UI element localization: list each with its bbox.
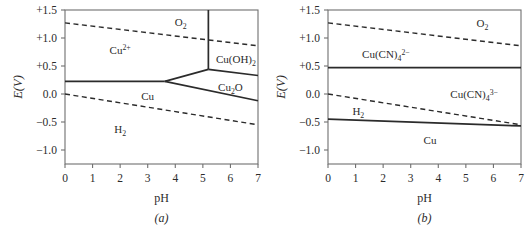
x-tick-label: 2 <box>380 172 386 184</box>
boundary-line-cu2o-cu-oh-2-boundary <box>208 69 258 75</box>
x-tick-label: 6 <box>491 172 497 184</box>
boundary-line-o2-water-stability-upper <box>328 23 521 46</box>
region-label-cu-oh-2: Cu(OH)2 <box>216 53 256 68</box>
panel-a: +1.5+1.0+0.50.0−0.5−1.001234567pHE(V)Cu2… <box>0 0 263 231</box>
y-tick-label: −1.0 <box>36 144 57 156</box>
region-label-cu-metal: Cu <box>424 134 437 146</box>
y-tick-label: +1.5 <box>36 4 57 16</box>
x-tick-label: 3 <box>408 172 414 184</box>
x-tick-label: 7 <box>518 172 524 184</box>
panel-b-plot: +1.5+1.0+0.50.0−0.5−1.001234567pHE(V)O2C… <box>263 0 526 231</box>
region-label-cu-metal: Cu <box>141 90 154 102</box>
x-axis-title: pH <box>417 191 432 205</box>
y-axis-title: E(V) <box>11 75 25 100</box>
panel-caption: (a) <box>155 211 169 225</box>
x-tick-label: 0 <box>62 172 68 184</box>
y-tick-label: +0.5 <box>299 60 320 72</box>
y-tick-label: −0.5 <box>36 116 57 128</box>
region-label-cu2plus: Cu2+ <box>110 43 132 56</box>
x-tick-label: 3 <box>145 172 151 184</box>
y-axis-title: E(V) <box>274 75 288 100</box>
x-tick-label: 5 <box>200 172 206 184</box>
panel-b: +1.5+1.0+0.50.0−0.5−1.001234567pHE(V)O2C… <box>263 0 526 231</box>
y-tick-label: 0.0 <box>306 88 321 100</box>
region-label-o2: O2 <box>175 16 187 31</box>
x-axis-title: pH <box>154 191 169 205</box>
x-tick-label: 1 <box>90 172 96 184</box>
region-label-o2: O2 <box>476 17 488 32</box>
panel-a-plot: +1.5+1.0+0.50.0−0.5−1.001234567pHE(V)Cu2… <box>0 0 263 231</box>
y-tick-label: +1.0 <box>36 32 57 44</box>
x-tick-label: 6 <box>228 172 234 184</box>
x-tick-label: 4 <box>172 172 178 184</box>
x-tick-label: 0 <box>325 172 331 184</box>
region-label-h2: H2 <box>114 123 126 138</box>
y-tick-label: −0.5 <box>299 116 320 128</box>
pourbaix-figure: +1.5+1.0+0.50.0−0.5−1.001234567pHE(V)Cu2… <box>0 0 526 231</box>
y-tick-label: +1.0 <box>299 32 320 44</box>
y-tick-label: −1.0 <box>299 144 320 156</box>
panel-b-content: +1.5+1.0+0.50.0−0.5−1.001234567pHE(V)O2C… <box>274 4 524 225</box>
region-label-cu-cn-4-3minus: Cu(CN)43− <box>450 88 498 103</box>
x-tick-label: 4 <box>435 172 441 184</box>
boundary-line-o2-water-stability-upper <box>65 23 258 46</box>
y-tick-label: 0.0 <box>43 88 58 100</box>
panel-caption: (b) <box>418 211 432 225</box>
boundary-line-cu2plus-cu2o-boundary <box>165 69 209 81</box>
y-tick-label: +0.5 <box>36 60 57 72</box>
x-tick-label: 7 <box>255 172 261 184</box>
x-tick-label: 2 <box>117 172 123 184</box>
region-label-h2: H2 <box>352 105 364 120</box>
x-tick-label: 1 <box>353 172 359 184</box>
y-tick-label: +1.5 <box>299 4 320 16</box>
panel-a-content: +1.5+1.0+0.50.0−0.5−1.001234567pHE(V)Cu2… <box>11 4 261 225</box>
boundary-line-h2-water-stability-lower <box>65 94 258 125</box>
x-tick-label: 5 <box>463 172 469 184</box>
region-label-cu-cn-4-2minus: Cu(CN)42− <box>362 48 410 63</box>
boundary-line-cu-cu2o-boundary <box>165 81 258 100</box>
